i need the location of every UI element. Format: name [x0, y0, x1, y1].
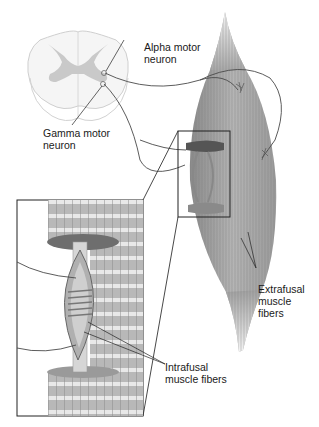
spinal-cord-cross-section: [28, 31, 129, 121]
label-intrafusal-muscle-fibers: Intrafusal muscle fibers: [165, 361, 227, 385]
enlarged-muscle-spindle-inset: [17, 200, 143, 416]
label-alpha-motor-neuron: Alpha motor neuron: [144, 41, 201, 65]
label-extrafusal-muscle-fibers: Extrafusal muscle fibers: [258, 283, 305, 319]
label-gamma-motor-neuron: Gamma motor neuron: [43, 127, 110, 151]
